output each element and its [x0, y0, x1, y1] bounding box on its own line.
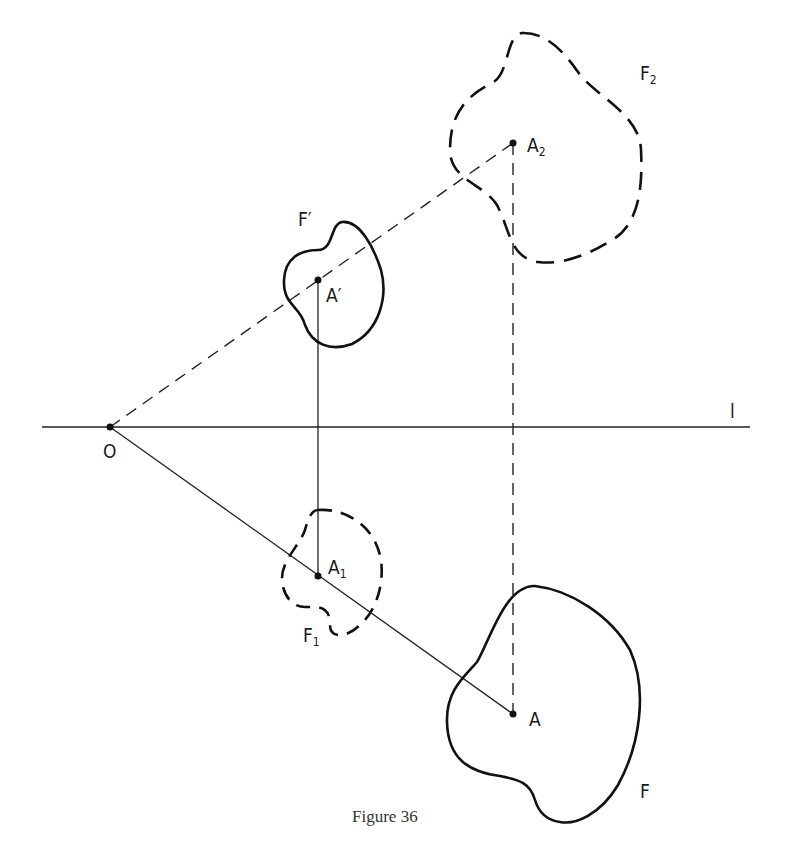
point-a	[510, 711, 517, 718]
ray-o-a	[110, 427, 513, 714]
shape-f2	[450, 33, 641, 263]
point-a1	[315, 573, 322, 580]
ray-o-a2	[110, 143, 513, 427]
label-a: A	[529, 708, 541, 730]
label-a-prime: A′	[326, 284, 342, 306]
point-a2	[510, 140, 517, 147]
label-a1: A1	[328, 556, 347, 581]
label-f1: F1	[303, 624, 320, 649]
point-o	[107, 424, 114, 431]
label-line-l: l	[730, 400, 735, 422]
label-origin: O	[103, 440, 116, 462]
point-a-prime	[315, 277, 322, 284]
label-a2: A2	[527, 134, 546, 159]
label-f: F	[640, 780, 650, 802]
label-f2: F2	[640, 62, 657, 87]
figure-caption: Figure 36	[352, 807, 418, 826]
geometry-diagram: O l A2 F2 F′ A′ A1 F1 A F Figure 36	[0, 0, 785, 863]
shape-f	[447, 586, 640, 823]
label-f-prime: F′	[298, 208, 312, 230]
